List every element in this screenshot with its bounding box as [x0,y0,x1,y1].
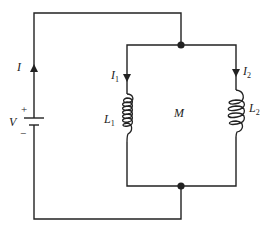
branch1-current-label: I1 [110,68,119,84]
inductor2-label: L2 [248,101,260,117]
circuit-diagram: + − V I I1 I2 L1 L2 M [0,0,272,232]
current-arrow-down-icon [123,74,131,82]
inductor-coil-icon [123,94,133,142]
mutual-inductance-label: M [173,106,185,120]
inductor1-label: L1 [103,112,115,128]
minus-sign: − [20,127,26,139]
top-node [177,41,184,48]
inductor-coil-icon [228,90,244,137]
current-arrow-down-icon [232,69,240,77]
branch2-current-label: I2 [242,64,251,80]
battery-icon [24,118,44,127]
source-current-label: I [16,60,22,74]
current-arrow-up-icon [30,64,38,72]
voltage-label: V [9,115,18,129]
bottom-node [177,182,184,189]
plus-sign: + [21,103,27,115]
